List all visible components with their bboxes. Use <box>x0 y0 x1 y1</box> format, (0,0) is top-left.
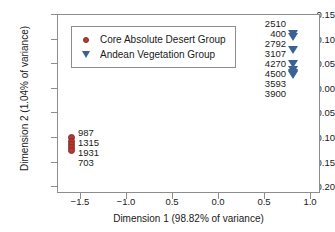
x-tick-mark <box>310 193 311 199</box>
x-tick-mark <box>218 193 219 199</box>
x-tick-mark <box>126 193 127 199</box>
legend-item-label: Andean Vegetation Group <box>93 49 215 60</box>
data-point-marker <box>68 147 75 154</box>
x-axis-title: Dimension 1 (98.82% of variance) <box>57 213 320 224</box>
x-tick-mark <box>264 193 265 199</box>
circle-marker-icon <box>79 37 93 43</box>
legend-item-core-absolute-desert-group: Core Absolute Desert Group <box>79 32 226 47</box>
data-point-marker <box>288 46 298 54</box>
point-label: 703 <box>78 157 94 168</box>
legend-item-andean-vegetation-group: Andean Vegetation Group <box>79 47 226 62</box>
legend-item-label: Core Absolute Desert Group <box>93 34 226 45</box>
triangle-down-marker-icon <box>79 51 93 58</box>
data-point-marker <box>288 33 298 41</box>
point-label: 3900 <box>250 88 286 99</box>
y-axis-title: Dimension 2 (1.04% of variance) <box>19 0 30 199</box>
legend: Core Absolute Desert Group Andean Vegeta… <box>71 26 236 68</box>
scatter-plot-figure: Dimension 2 (1.04% of variance) 0.15 0.1… <box>0 0 335 232</box>
x-tick-mark <box>80 193 81 199</box>
data-point-marker <box>288 71 298 79</box>
x-tick-mark <box>172 193 173 199</box>
